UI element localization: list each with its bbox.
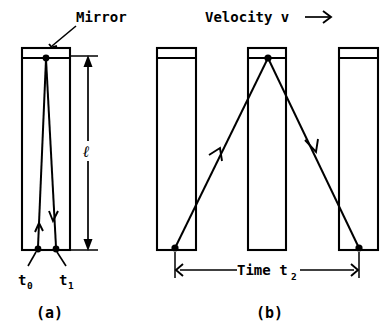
length-arrowhead-bottom: [84, 239, 93, 251]
tube-start-outline: [157, 48, 196, 250]
t0-leader-line: [28, 252, 36, 266]
length-arrowhead-top: [84, 55, 93, 67]
panel-b-caption: (b): [256, 304, 283, 322]
rest-detection-dot: [53, 246, 60, 253]
panel-a-caption: (a): [36, 304, 63, 322]
t1-label-group: t 1: [59, 272, 74, 291]
moving-detection-dot: [355, 244, 362, 251]
time-label-group: Time t 2: [237, 262, 297, 282]
moving-reflection-dot: [264, 54, 271, 61]
time-label: Time t: [237, 262, 288, 278]
mirror-leader-line: [52, 26, 76, 46]
rest-reflection-dot: [43, 55, 50, 62]
rest-emission-dot: [35, 246, 42, 253]
t1-leader-line: [57, 252, 66, 266]
tube-middle-outline: [248, 48, 286, 250]
t0-label: t: [18, 272, 26, 288]
moving-emission-dot: [171, 244, 178, 251]
light-clock-figure: Mirror: [0, 0, 391, 330]
length-label: ℓ: [82, 142, 90, 161]
moving-ray-up-arrowhead: [209, 148, 222, 161]
t1-subscript: 1: [68, 280, 74, 291]
velocity-label: Velocity v: [205, 9, 289, 25]
time-subscript: 2: [291, 271, 297, 282]
t1-label: t: [59, 272, 67, 288]
panel-a-group: Mirror: [18, 9, 127, 322]
t0-label-group: t 0: [18, 272, 33, 291]
velocity-arrow-group: [305, 11, 331, 23]
diagram-canvas: Mirror: [0, 0, 391, 330]
t0-subscript: 0: [27, 280, 33, 291]
mirror-label: Mirror: [76, 9, 127, 25]
panel-b-group: Velocity v: [157, 9, 378, 322]
mirror-leader-group: [49, 26, 76, 48]
